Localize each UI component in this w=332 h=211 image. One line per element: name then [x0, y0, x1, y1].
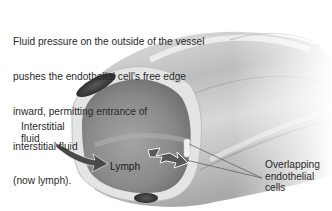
- caption-line: Fluid pressure on the outside of the ves…: [13, 36, 204, 48]
- caption-line: inward, permitting entrance of: [13, 106, 204, 118]
- lymph-label: Lymph: [110, 161, 140, 173]
- interstitial-fluid-label: Interstitial fluid: [21, 121, 65, 144]
- caption-line: pushes the endothelial cell's free edge: [13, 71, 204, 83]
- caption-text: Fluid pressure on the outside of the ves…: [13, 13, 204, 199]
- caption-line: (now lymph).: [13, 175, 204, 187]
- overlapping-cells-label: Overlapping endothelial cells: [265, 159, 320, 194]
